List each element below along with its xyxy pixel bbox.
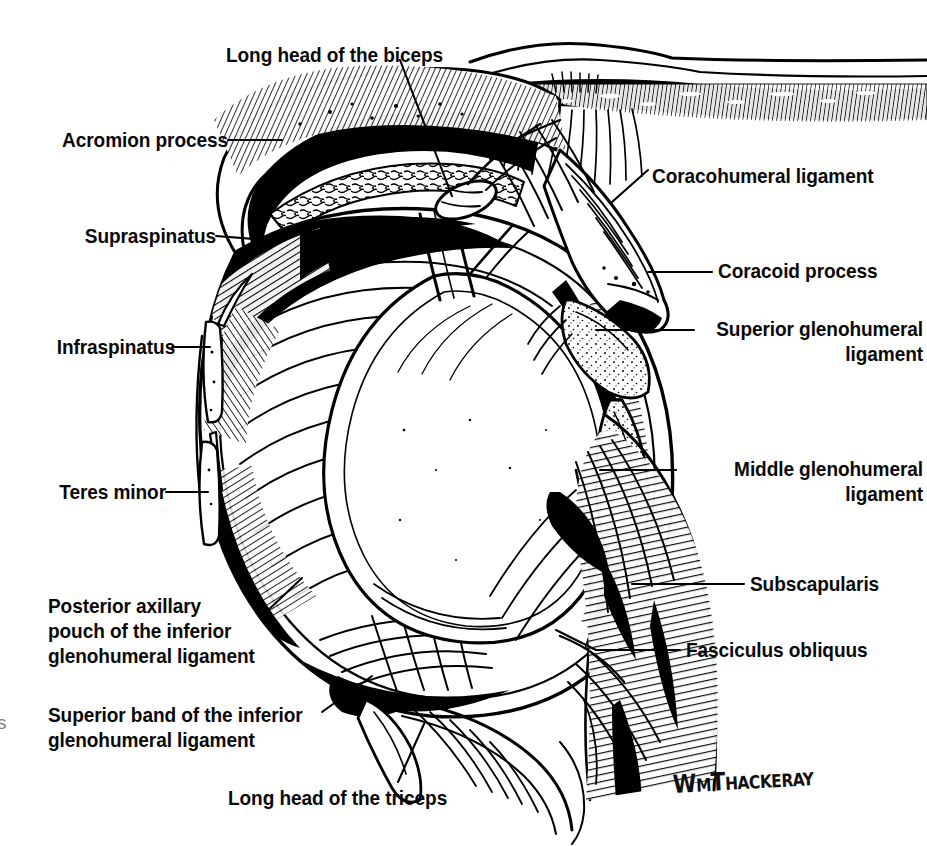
label-fasciculus-obliquus: Fasciculus obliquus [686, 637, 868, 662]
page-edge-artifact: s [0, 712, 7, 734]
label-superior-band-inferior-gh-ligament: Superior band of the inferiorglenohumera… [48, 702, 303, 752]
label-superior-glenohumeral-ligament: Superior glenohumeralligament [651, 316, 923, 366]
label-line-1: Posterior axillary [48, 594, 201, 617]
label-line-1: Superior band of the inferior [48, 703, 303, 726]
label-line-2: ligament [845, 482, 923, 505]
label-posterior-axillary-pouch: Posterior axillarypouch of the inferiorg… [48, 593, 255, 668]
label-subscapularis: Subscapularis [750, 571, 879, 596]
label-middle-glenohumeral-ligament: Middle glenohumeralligament [651, 456, 923, 506]
label-line-1: Middle glenohumeral [734, 457, 923, 480]
label-coracoid-process: Coracoid process [718, 258, 878, 283]
label-supraspinatus: Supraspinatus [60, 223, 216, 248]
label-long-head-of-triceps: Long head of the triceps [228, 785, 447, 810]
label-long-head-of-biceps: Long head of the biceps [226, 42, 443, 67]
label-coracohumeral-ligament: Coracohumeral ligament [652, 163, 873, 188]
label-line-1: Superior glenohumeral [716, 317, 923, 340]
label-line-3: glenohumeral ligament [48, 644, 255, 667]
label-infraspinatus: Infraspinatus [57, 334, 172, 359]
label-acromion-process: Acromion process [58, 127, 228, 152]
label-teres-minor: Teres minor [56, 479, 166, 504]
label-line-2: ligament [845, 342, 923, 365]
label-line-2: pouch of the inferior [48, 619, 231, 642]
label-line-2: glenohumeral ligament [48, 728, 255, 751]
